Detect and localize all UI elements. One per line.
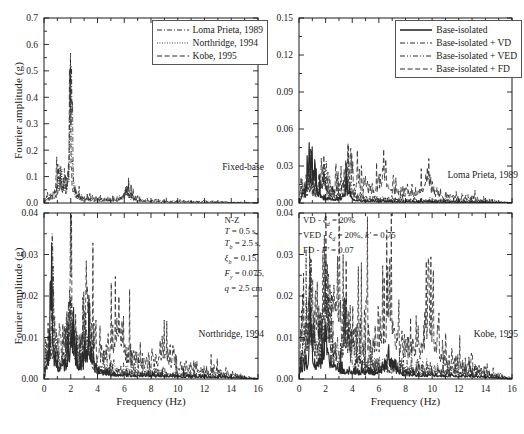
- annotation-line: ξb = 0.15,: [225, 253, 264, 268]
- y-tick-label: 0.0: [26, 198, 38, 208]
- y-tick-label: 0.02: [276, 291, 293, 301]
- legend-line-sample: [399, 51, 433, 61]
- y-tick-label: 0.1: [26, 172, 38, 182]
- y-tick-label: 0.2: [26, 146, 38, 156]
- annotation-dampers: VD - ξd = 20%VED - ξd = 20%, k′ = 0.75FD…: [303, 215, 396, 257]
- legend-line-sample: [156, 51, 190, 61]
- panel-label-loma-prieta: Loma Prieta, 1989: [448, 170, 518, 180]
- annotation-line: Fy = 0.075,: [225, 268, 264, 283]
- legend-item-label: Base-isolated + VD: [436, 38, 511, 48]
- y-tick-label: 0.06: [276, 124, 293, 134]
- x-tick-label: 8: [149, 384, 154, 394]
- y-tick-label: 0.3: [26, 119, 38, 129]
- legend-records: Loma Prieta, 1989Northridge, 1994Kobe, 1…: [152, 20, 268, 65]
- legend-line-sample: [156, 25, 190, 35]
- y-tick-label: 0.03: [276, 250, 293, 260]
- annotation-line: q = 2.5 cm: [225, 283, 264, 294]
- y-tick-label: 0.5: [26, 66, 38, 76]
- legend-item-label: Kobe, 1995: [193, 51, 237, 61]
- annotation-line: VED - ξd = 20%, k′ = 0.75: [303, 230, 396, 245]
- x-tick-label: 8: [403, 384, 408, 394]
- panel-label-kobe: Kobe, 1995: [474, 329, 518, 339]
- y-tick-label: 0.00: [276, 198, 293, 208]
- legend-item[interactable]: Base-isolated + FD: [399, 62, 517, 75]
- plot-panel-loma-prieta: 0.000.030.060.090.120.15Loma Prieta, 198…: [299, 18, 524, 229]
- y-tick-label: 0.01: [21, 333, 38, 343]
- y-tick-label: 0.12: [276, 50, 293, 60]
- y-tick-label: 0.03: [276, 161, 293, 171]
- x-tick-label: 14: [481, 384, 491, 394]
- legend-item-label: Base-isolated + FD: [436, 64, 509, 74]
- series-line: [44, 60, 258, 203]
- y-tick-label: 0.15: [276, 14, 293, 23]
- x-tick-label: 10: [427, 384, 437, 394]
- y-tick-label: 0.04: [276, 209, 293, 218]
- y-tick-label: 0.03: [21, 250, 38, 260]
- legend-item-label: Northridge, 1994: [193, 38, 258, 48]
- legend-line-sample: [399, 38, 433, 48]
- series-line: [44, 93, 258, 203]
- annotation-line: VD - ξd = 20%: [303, 215, 396, 230]
- x-tick-label: 0: [297, 384, 302, 394]
- y-tick-label: 0.00: [21, 374, 38, 384]
- legend-item[interactable]: Northridge, 1994: [156, 36, 263, 49]
- x-tick-label: 12: [200, 384, 210, 394]
- legend-line-sample: [399, 64, 433, 74]
- y-tick-label: 0.4: [26, 93, 38, 103]
- legend-item[interactable]: Kobe, 1995: [156, 49, 263, 62]
- plot-panel-northridge: 02468101214160.000.010.020.030.04Northri…: [44, 213, 270, 405]
- panel-label-fixed-base: Fixed-base: [222, 162, 264, 172]
- legend-item[interactable]: Base-isolated + VD: [399, 36, 517, 49]
- x-tick-label: 6: [122, 384, 127, 394]
- annotation-line: Tb = 2.5 s,: [225, 238, 264, 253]
- annotation-line: N-Z: [225, 215, 264, 226]
- x-tick-label: 12: [454, 384, 464, 394]
- legend-line-sample: [399, 25, 433, 35]
- y-tick-label: 0.00: [276, 374, 293, 384]
- y-tick-label: 0.02: [21, 291, 38, 301]
- annotation-line: FD - F′ = 0.07: [303, 245, 396, 256]
- series-group: [44, 53, 258, 203]
- annotation-isolator: N-ZT = 0.5 s,Tb = 2.5 s,ξb = 0.15,Fy = 0…: [225, 215, 264, 295]
- legend-item[interactable]: Base-isolated: [399, 23, 517, 36]
- plot-panel-fixed-base: 0.00.10.20.30.40.50.60.7Fixed-baseLoma P…: [44, 18, 270, 229]
- x-tick-label: 16: [507, 384, 517, 394]
- annotation-line: T = 0.5 s,: [225, 226, 264, 237]
- legend-item[interactable]: Loma Prieta, 1989: [156, 23, 263, 36]
- x-tick-label: 10: [173, 384, 183, 394]
- y-tick-label: 0.6: [26, 40, 38, 50]
- x-tick-label: 2: [68, 384, 73, 394]
- plot-panel-kobe: 02468101214160.000.010.020.030.04Kobe, 1…: [299, 213, 524, 405]
- legend-systems: Base-isolatedBase-isolated + VDBase-isol…: [395, 20, 522, 78]
- y-tick-label: 0.04: [21, 209, 38, 218]
- y-tick-label: 0.01: [276, 333, 293, 343]
- panel-label-northridge: Northridge, 1994: [199, 329, 264, 339]
- x-tick-label: 14: [227, 384, 237, 394]
- x-tick-label: 4: [350, 384, 355, 394]
- legend-item-label: Base-isolated + VED: [436, 51, 517, 61]
- series-line: [44, 53, 258, 203]
- x-tick-label: 2: [323, 384, 328, 394]
- y-tick-label: 0.09: [276, 87, 293, 97]
- legend-item-label: Loma Prieta, 1989: [193, 25, 263, 35]
- x-tick-label: 6: [377, 384, 382, 394]
- x-tick-label: 16: [253, 384, 263, 394]
- x-tick-label: 0: [42, 384, 47, 394]
- legend-item[interactable]: Base-isolated + VED: [399, 49, 517, 62]
- x-tick-label: 4: [95, 384, 100, 394]
- y-tick-label: 0.7: [26, 14, 38, 23]
- legend-item-label: Base-isolated: [436, 25, 487, 35]
- legend-line-sample: [156, 38, 190, 48]
